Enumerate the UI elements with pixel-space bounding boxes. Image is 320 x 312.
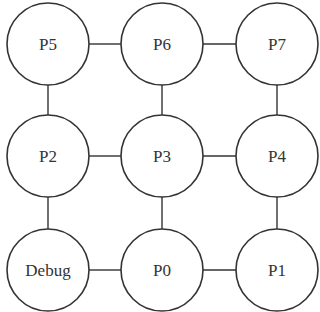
node-debug: Debug [7,229,89,311]
node-label: P5 [39,35,57,54]
node-label: Debug [25,261,71,280]
node-label: P4 [268,147,286,166]
mesh-diagram: P5 P6 P7 P2 P3 P4 Debug P0 P1 [0,0,320,312]
node-p1: P1 [236,229,318,311]
node-label: P0 [153,261,171,280]
node-p2: P2 [7,115,89,197]
node-p7: P7 [236,3,318,85]
node-p6: P6 [121,3,203,85]
node-label: P3 [153,147,171,166]
node-p0: P0 [121,229,203,311]
node-p4: P4 [236,115,318,197]
node-label: P2 [39,147,57,166]
node-p5: P5 [7,3,89,85]
node-label: P1 [268,261,286,280]
node-label: P6 [153,35,171,54]
node-p3: P3 [121,115,203,197]
node-label: P7 [268,35,286,54]
